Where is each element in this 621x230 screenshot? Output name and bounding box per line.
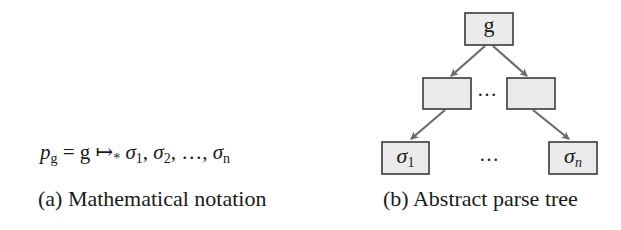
leaf-sub: n [575,155,582,170]
node-middle-left [423,78,471,109]
edge-root-right [493,46,527,76]
leaf-sym: σ [397,143,408,168]
caption-b: (b) Abstract parse tree [383,186,578,212]
leaf-sym: σ [564,143,575,168]
node-leaf-n-label: σn [549,143,597,169]
middle-ellipsis: … [477,78,498,101]
edge-right-leaf [533,110,569,139]
edge-root-left [451,46,485,76]
node-root-label: g [465,12,513,38]
leaf-sub: 1 [407,155,414,170]
edge-left-leaf [411,110,445,139]
leaves-ellipsis: … [479,143,500,166]
node-middle-right [507,78,555,109]
node-leaf-1-label: σ1 [382,143,429,169]
